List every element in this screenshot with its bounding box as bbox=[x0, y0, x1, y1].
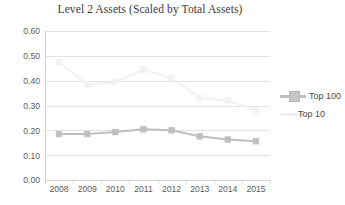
legend-label: Top 10 bbox=[298, 106, 325, 123]
data-point-marker bbox=[141, 127, 146, 132]
legend-item-top-100[interactable]: Top 100 bbox=[281, 88, 345, 106]
data-point-marker bbox=[113, 79, 118, 84]
data-point-marker bbox=[169, 128, 174, 133]
legend-square-marker-icon bbox=[289, 91, 300, 102]
data-point-marker bbox=[225, 137, 230, 142]
data-point-marker bbox=[56, 131, 61, 136]
data-point-marker bbox=[84, 131, 89, 136]
data-point-marker bbox=[197, 134, 202, 139]
data-point-marker bbox=[225, 98, 230, 103]
data-point-marker bbox=[253, 139, 258, 144]
data-point-marker bbox=[56, 59, 61, 64]
legend-item-top-10[interactable]: Top 10 bbox=[281, 106, 345, 124]
data-point-marker bbox=[253, 108, 258, 113]
data-point-marker bbox=[113, 129, 118, 134]
chart-container: Level 2 Assets (Scaled by Total Assets) … bbox=[0, 0, 345, 205]
chart-legend: Top 100 Top 10 bbox=[281, 88, 345, 124]
data-point-marker bbox=[197, 95, 202, 100]
legend-label: Top 100 bbox=[309, 88, 341, 105]
data-point-marker bbox=[84, 82, 89, 87]
data-point-marker bbox=[141, 67, 146, 72]
data-point-marker bbox=[169, 75, 174, 80]
series-top-10 bbox=[56, 59, 258, 113]
series-top-100 bbox=[56, 127, 258, 144]
